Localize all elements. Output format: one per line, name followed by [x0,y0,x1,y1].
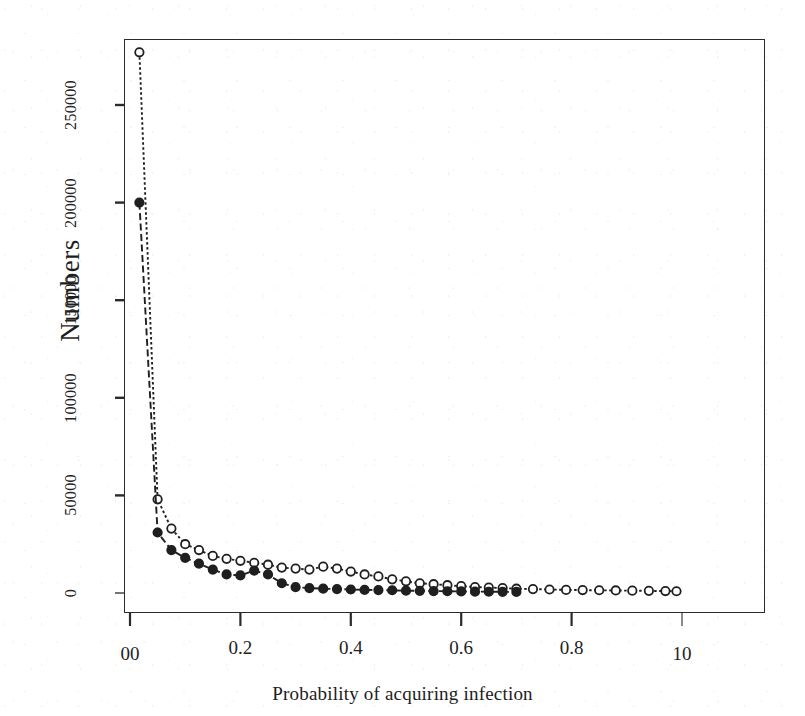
y-tick-label: 50000 [62,460,80,530]
data-series-layer [135,48,680,596]
x-tick-label: 0.4 [311,637,391,659]
chart-canvas [0,0,805,716]
x-axis-ticks [130,613,682,626]
chart-figure: Numbers 050000100000150000200000250000 0… [0,0,805,716]
y-tick-label: 150000 [62,265,80,335]
x-tick-label: 0.6 [421,637,501,659]
y-tick-label: 100000 [62,363,80,433]
y-axis-ticks [115,105,124,593]
x-tick-label: 0.8 [532,637,612,659]
x-tick-label: 10 [642,643,722,665]
x-tick-label: 00 [90,643,170,665]
y-tick-label: 200000 [62,168,80,238]
x-tick-label: 0.2 [200,637,280,659]
y-tick-label: 250000 [62,70,80,140]
x-axis-title: Probability of acquiring infection [0,683,805,705]
y-tick-label: 0 [62,558,80,628]
